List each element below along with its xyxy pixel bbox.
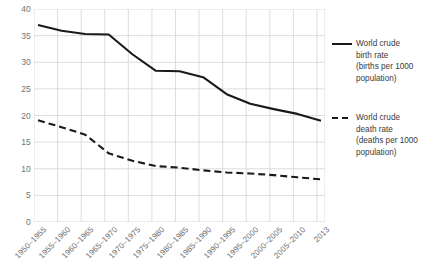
y-tick-label: 10 [5,165,31,174]
legend-label-death-rate: World crudedeath rate(deaths per 1000pop… [356,112,418,159]
y-tick-label: 0 [5,218,31,227]
y-tick-label: 30 [5,58,31,67]
legend-item-death-rate: World crudedeath rate(deaths per 1000pop… [332,112,418,159]
line-death-rate [38,120,321,179]
data-series-layer [34,9,325,222]
chart-legend: World crudebirth rate(births per 1000pop… [332,0,423,269]
plot-area [34,9,325,222]
y-tick-label: 15 [5,138,31,147]
y-tick-label: 20 [5,111,31,120]
y-tick-label: 35 [5,31,31,40]
y-tick-label: 40 [5,5,31,14]
legend-label-birth-rate: World crudebirth rate(births per 1000pop… [356,38,413,85]
chart-container: 4035302520151050 1950–19551955–19601960–… [0,0,423,269]
y-axis: 4035302520151050 [0,0,31,269]
x-axis: 1950–19551955–19601960–19651965–19701970… [34,222,325,269]
legend-item-birth-rate: World crudebirth rate(births per 1000pop… [332,38,413,85]
x-tick-label: 2013 [312,225,331,244]
y-tick-label: 5 [5,191,31,200]
line-birth-rate [38,25,321,121]
y-tick-label: 25 [5,85,31,94]
solid-line-icon [332,38,352,50]
dashed-line-icon [332,112,352,124]
